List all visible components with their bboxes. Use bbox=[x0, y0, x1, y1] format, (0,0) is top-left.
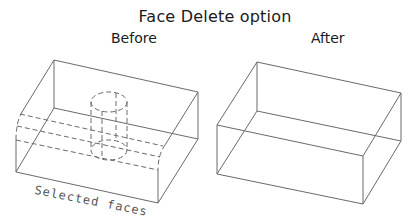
selected-faces bbox=[16, 92, 165, 170]
after-box bbox=[217, 62, 401, 204]
